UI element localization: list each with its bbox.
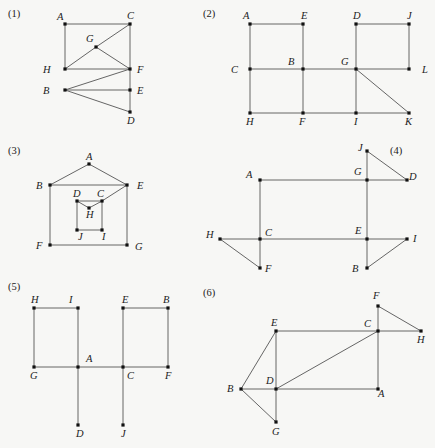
vertex-label: J bbox=[121, 428, 127, 439]
vertex-label: D bbox=[352, 10, 361, 21]
vertex-A bbox=[248, 22, 251, 25]
vertex-label: A bbox=[85, 151, 93, 162]
vertex-label: B bbox=[227, 383, 234, 394]
graph-number-label: (4) bbox=[390, 145, 403, 157]
graph-5: HIEBGACFDJ(5) bbox=[8, 281, 172, 439]
vertex-A bbox=[87, 162, 90, 165]
edge-B-G bbox=[241, 389, 276, 422]
vertex-label: I bbox=[353, 116, 358, 127]
edge-G-C bbox=[96, 24, 130, 47]
vertex-label: E bbox=[300, 10, 308, 21]
vertex-label: J bbox=[358, 142, 364, 153]
vertex-A bbox=[76, 365, 79, 368]
vertex-label: E bbox=[354, 225, 362, 236]
vertex-H bbox=[32, 306, 35, 309]
edge-G-F bbox=[96, 47, 130, 69]
vertex-F bbox=[166, 365, 169, 368]
vertex-H bbox=[63, 67, 66, 70]
vertex-label: C bbox=[97, 188, 105, 199]
vertex-label: I bbox=[68, 294, 73, 305]
vertex-C bbox=[121, 365, 124, 368]
vertex-I bbox=[354, 111, 357, 114]
edge-H-G bbox=[65, 47, 96, 69]
edge-G-K bbox=[356, 69, 409, 113]
vertex-A bbox=[63, 22, 66, 25]
vertex-C bbox=[248, 67, 251, 70]
graph-4: JGDAHCEIFB(4) bbox=[205, 142, 417, 274]
vertex-E bbox=[121, 306, 124, 309]
vertex-label: A bbox=[85, 353, 93, 364]
edge-B-F bbox=[65, 69, 130, 90]
vertex-label: B bbox=[36, 180, 43, 191]
vertex-B bbox=[239, 387, 242, 390]
vertex-E bbox=[301, 22, 304, 25]
vertex-B bbox=[301, 67, 304, 70]
vertex-F bbox=[128, 67, 131, 70]
vertex-B bbox=[166, 306, 169, 309]
edge-D-H bbox=[77, 201, 89, 208]
vertex-B bbox=[63, 88, 66, 91]
vertex-label: B bbox=[43, 85, 50, 96]
graph-number-label: (2) bbox=[203, 8, 216, 20]
vertex-label: C bbox=[231, 64, 239, 75]
vertex-E bbox=[274, 329, 277, 332]
vertex-G bbox=[32, 365, 35, 368]
vertex-K bbox=[407, 111, 410, 114]
vertex-D bbox=[274, 387, 277, 390]
vertex-label: K bbox=[404, 116, 413, 127]
vertex-label: F bbox=[372, 290, 380, 301]
vertex-label: B bbox=[352, 263, 359, 274]
graph-number-label: (5) bbox=[8, 281, 21, 293]
vertex-label: J bbox=[407, 10, 413, 21]
vertex-label: C bbox=[364, 318, 372, 329]
vertex-label: A bbox=[242, 10, 250, 21]
vertex-label: C bbox=[127, 10, 135, 21]
vertex-L bbox=[407, 67, 410, 70]
vertex-label: B bbox=[288, 56, 295, 67]
graph-number-label: (6) bbox=[203, 287, 216, 299]
edge-A-E bbox=[89, 164, 127, 185]
graph-2: AEDJCBGLHFIK(2) bbox=[203, 8, 428, 127]
vertex-label: L bbox=[421, 64, 428, 75]
vertex-label: F bbox=[164, 370, 172, 381]
vertex-label: D bbox=[126, 115, 135, 126]
vertex-label: H bbox=[30, 294, 40, 305]
vertex-G bbox=[354, 67, 357, 70]
edge-B-I bbox=[367, 239, 407, 268]
vertex-label: E bbox=[121, 294, 129, 305]
edge-A-B bbox=[50, 164, 89, 185]
vertex-F bbox=[258, 266, 261, 269]
vertex-D bbox=[128, 110, 131, 113]
edge-F-H bbox=[378, 306, 421, 331]
vertex-G bbox=[365, 178, 368, 181]
vertex-I bbox=[405, 237, 408, 240]
vertex-label: J bbox=[78, 231, 84, 242]
vertex-label: H bbox=[42, 64, 52, 75]
vertex-label: H bbox=[416, 334, 426, 345]
graph-1: ACGHFBED(1) bbox=[8, 8, 144, 126]
edge-H-C bbox=[89, 201, 102, 208]
vertex-label: G bbox=[30, 370, 38, 381]
vertex-J bbox=[365, 149, 368, 152]
vertex-D bbox=[354, 22, 357, 25]
vertex-E bbox=[128, 88, 131, 91]
vertex-B bbox=[48, 183, 51, 186]
vertex-label: D bbox=[72, 188, 81, 199]
graph-number-label: (3) bbox=[8, 145, 21, 157]
vertex-label: E bbox=[136, 180, 144, 191]
vertex-label: D bbox=[75, 428, 84, 439]
graph-6: FECHBDAG(6) bbox=[203, 287, 426, 437]
vertex-F bbox=[301, 111, 304, 114]
edge-H-F bbox=[220, 239, 260, 268]
vertex-label: C bbox=[265, 227, 273, 238]
graph-3: ABEDCHJIFG(3) bbox=[8, 145, 144, 252]
vertex-label: B bbox=[163, 294, 170, 305]
vertex-A bbox=[258, 178, 261, 181]
vertex-C bbox=[376, 329, 379, 332]
vertex-F bbox=[376, 304, 379, 307]
edge-E-C bbox=[102, 185, 127, 201]
vertex-label: F bbox=[35, 240, 43, 251]
vertex-label: G bbox=[354, 166, 362, 177]
vertex-H bbox=[419, 329, 422, 332]
edge-B-D bbox=[65, 90, 130, 112]
